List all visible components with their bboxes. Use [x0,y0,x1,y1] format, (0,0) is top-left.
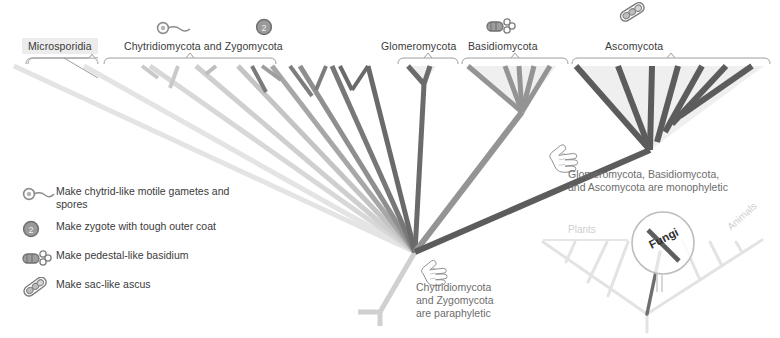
inset-label-plants: Plants [568,224,596,235]
magnifier-icon [632,212,694,292]
inset-eukaryote-tree [0,0,780,338]
figure-canvas: Microsporidia Chytridiomycota and Zygomy… [0,0,780,338]
